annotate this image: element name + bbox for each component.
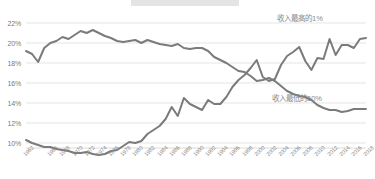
y-axis-tick-label: 16% <box>1 80 21 87</box>
y-axis-tick-label: 12% <box>1 120 21 127</box>
gridlines <box>26 23 366 143</box>
y-axis-tick-label: 18% <box>1 60 21 67</box>
y-axis-tick-label: 10% <box>1 140 21 147</box>
series-paths <box>26 30 366 155</box>
y-axis-tick-label: 20% <box>1 40 21 47</box>
legend-label-bottom-50-percent: 收入最低的50% <box>272 95 322 103</box>
legend-label-top-1-percent: 收入最高的1% <box>277 15 323 23</box>
y-axis-tick-label: 14% <box>1 100 21 107</box>
y-axis-tick-label: 22% <box>1 20 21 27</box>
